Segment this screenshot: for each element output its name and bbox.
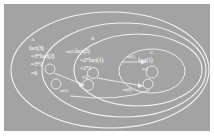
edge-label-return: m(0) [123,88,131,93]
region-label-a: A [31,37,34,42]
frame-c-line-2: =1 [142,66,148,72]
recursion-trace-figure: A fact(3) =3*fact(2) =3*2 =6 B fact(2) =… [0,0,214,139]
edge-label-a-b: m(2) [66,50,74,55]
region-label-b: B [91,36,94,41]
edge-label-horizontal: m(1) [127,55,135,60]
region-ellipse-b [42,23,206,117]
frame-b-line-3: =2*1 [80,65,92,71]
frame-c-line-1: fact(1) [138,57,153,63]
frame-b-line-4: =2 [82,74,88,80]
frame-a-line-1: fact(3) [29,45,44,51]
frame-a-line-4: =6 [31,70,37,76]
region-ellipse-a [11,12,209,128]
frame-b-line-1: fact(2) [75,48,90,54]
region-label-c: C [150,50,153,55]
frame-a-line-3: =3*2 [31,61,43,67]
region-ellipse-c [74,34,202,106]
edge-b-to-c [97,78,143,86]
node-b-2 [83,80,94,91]
frame-a-line-2: =3*fact(2) [31,53,54,59]
frame-b-line-2: =2*fact(1) [80,57,103,63]
node-c-2 [143,79,153,89]
node-a-1 [45,64,55,74]
edge-label-b-c: m(1) [60,89,68,94]
